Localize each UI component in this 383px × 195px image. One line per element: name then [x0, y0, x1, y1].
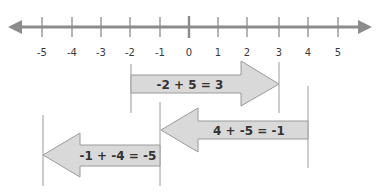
- equation-label: 4 + -5 = -1: [213, 124, 285, 138]
- tick-label: -4: [67, 47, 77, 58]
- axis-arrowhead-left-icon: [8, 20, 22, 34]
- arrow-equation-1: -2 + 5 = 3: [131, 61, 279, 106]
- equation-label: -1 + -4 = -5: [80, 149, 157, 163]
- tick-label: -3: [96, 47, 106, 58]
- tick-labels: -5 -4 -3 -2 -1 0 1 2 3 4 5: [37, 47, 341, 58]
- tick-label: 3: [276, 47, 282, 58]
- tick-label: 2: [244, 47, 250, 58]
- tick-label: 4: [305, 47, 311, 58]
- arrow-equation-3: -1 + -4 = -5: [43, 133, 160, 177]
- tick-label: -5: [37, 47, 47, 58]
- number-line-diagram: -5 -4 -3 -2 -1 0 1 2 3 4 5 -2 + 5 = 3 4 …: [0, 0, 383, 195]
- equation-label: -2 + 5 = 3: [157, 78, 224, 92]
- tick-label: 0: [186, 47, 192, 58]
- axis-arrowhead-right-icon: [358, 20, 372, 34]
- tick-label: 5: [335, 47, 341, 58]
- tick-label: -1: [155, 47, 165, 58]
- tick-label: -2: [125, 47, 135, 58]
- arrow-equation-2: 4 + -5 = -1: [161, 108, 308, 152]
- tick-label: 1: [215, 47, 221, 58]
